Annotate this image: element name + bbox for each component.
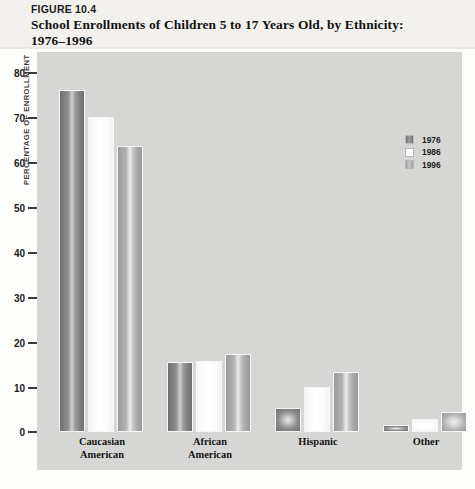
y-tick-label-30: 30 bbox=[14, 293, 25, 304]
y-tick-20: 20 bbox=[14, 337, 37, 349]
bars-row bbox=[167, 72, 251, 432]
x-label-line2: American bbox=[155, 449, 265, 462]
y-tick-label-40: 40 bbox=[14, 248, 25, 259]
x-label-other: Other bbox=[371, 436, 475, 449]
bar-caucasian-american-1976[interactable] bbox=[59, 90, 85, 432]
figure-number-label: FIGURE 10.4 bbox=[31, 3, 451, 16]
y-tick-mark bbox=[28, 297, 37, 298]
bar-caucasian-american-1986[interactable] bbox=[88, 117, 114, 432]
figure-title: School Enrollments of Children 5 to 17 Y… bbox=[31, 17, 441, 48]
y-tick-mark bbox=[28, 342, 37, 343]
y-tick-mark bbox=[28, 207, 37, 208]
y-tick-10: 10 bbox=[14, 382, 37, 394]
bar-african-american-1996[interactable] bbox=[225, 354, 251, 432]
bars-row bbox=[59, 72, 143, 432]
bar-other-1976[interactable] bbox=[383, 425, 409, 432]
x-label-line1: Other bbox=[371, 436, 475, 449]
figure-header-text: FIGURE 10.4 School Enrollments of Childr… bbox=[31, 3, 451, 48]
y-tick-label-0: 0 bbox=[19, 427, 25, 438]
y-tick-40: 40 bbox=[14, 247, 37, 259]
y-tick-mark bbox=[28, 252, 37, 253]
y-tick-label-20: 20 bbox=[14, 338, 25, 349]
bar-other-1986[interactable] bbox=[412, 419, 438, 432]
bar-african-american-1976[interactable] bbox=[167, 362, 193, 432]
bar-other-1996[interactable] bbox=[441, 412, 467, 432]
x-label-line1: African bbox=[155, 436, 265, 449]
x-label-hispanic: Hispanic bbox=[263, 436, 373, 449]
x-label-line1: Hispanic bbox=[263, 436, 373, 449]
x-label-african-american: African American bbox=[155, 436, 265, 461]
bar-hispanic-1986[interactable] bbox=[304, 387, 330, 432]
bars-row bbox=[275, 72, 359, 432]
y-tick-0: 0 bbox=[19, 426, 37, 438]
bar-hispanic-1976[interactable] bbox=[275, 408, 301, 432]
x-label-caucasian-american: Caucasian American bbox=[47, 436, 157, 461]
bar-caucasian-american-1996[interactable] bbox=[117, 146, 143, 432]
bar-african-american-1986[interactable] bbox=[196, 361, 222, 432]
x-label-line1: Caucasian bbox=[47, 436, 157, 449]
y-tick-50: 50 bbox=[14, 202, 37, 214]
y-axis-title: PERCENTAGE OF ENROLLMENT bbox=[22, 55, 31, 185]
figure-root: FIGURE 10.4 School Enrollments of Childr… bbox=[0, 0, 475, 489]
bar-groups bbox=[37, 52, 462, 470]
bar-hispanic-1996[interactable] bbox=[333, 372, 359, 432]
y-axis: 80 70 60 50 40 30 20 10 bbox=[0, 52, 37, 470]
y-tick-30: 30 bbox=[14, 292, 37, 304]
y-tick-mark bbox=[28, 431, 37, 432]
bars-row bbox=[383, 72, 467, 432]
y-tick-label-50: 50 bbox=[14, 203, 25, 214]
header-divider bbox=[0, 47, 475, 49]
x-label-line2: American bbox=[47, 449, 157, 462]
chart-plot-area: 1976 1986 1996 bbox=[37, 52, 462, 470]
y-tick-mark bbox=[28, 387, 37, 388]
x-axis-labels: Caucasian American African American Hisp… bbox=[37, 432, 462, 470]
y-tick-label-10: 10 bbox=[14, 383, 25, 394]
figure-header: FIGURE 10.4 School Enrollments of Childr… bbox=[0, 0, 475, 47]
